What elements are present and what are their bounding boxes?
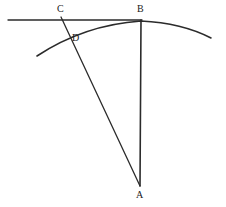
segment-B-to-A <box>140 20 141 186</box>
geometry-figure: C B D A <box>0 0 226 207</box>
vertex-label-c: C <box>57 4 64 14</box>
vertex-label-b: B <box>137 4 144 14</box>
arc-through-D-and-B <box>37 21 211 56</box>
geometry-canvas <box>0 0 226 207</box>
vertex-label-d: D <box>72 33 79 43</box>
vertex-label-a: A <box>136 190 143 200</box>
